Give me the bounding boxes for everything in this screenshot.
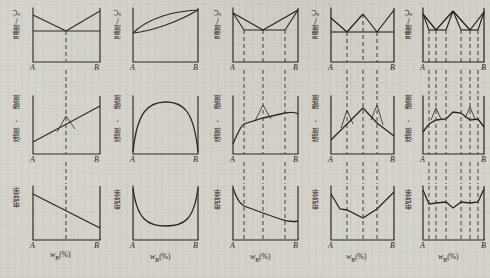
liquidus-3 bbox=[363, 14, 377, 32]
y-axis-label-temperature: 温度/℃ bbox=[114, 8, 122, 40]
axis-endpoint-A-bot: A bbox=[420, 241, 425, 250]
svg-col5-top bbox=[420, 6, 488, 70]
bridge-dashlines bbox=[429, 70, 478, 94]
axis-endpoint-B-mid: B bbox=[193, 155, 198, 164]
figure-page: 温度/℃ A B 强度, 硬度 bbox=[0, 0, 490, 278]
dash-bridge-col5-2 bbox=[420, 162, 488, 184]
axis-endpoint-B-bot: B bbox=[390, 241, 395, 250]
y-axis-label-strength-hardness: 强度, 硬度 bbox=[312, 96, 320, 143]
bridge-dashlines bbox=[429, 162, 478, 184]
conductivity-polyline bbox=[331, 192, 394, 218]
axes-frame bbox=[423, 96, 484, 154]
svg-col3-middle bbox=[230, 94, 302, 162]
panel-col3-phase-diagram bbox=[230, 6, 302, 70]
svg-col4-top bbox=[328, 6, 398, 70]
property-polyline bbox=[331, 108, 394, 140]
x-axis-label-3: wB(%) bbox=[250, 252, 271, 263]
x-axis-unit: (%) bbox=[355, 252, 366, 261]
y-axis-label-strength-hardness: 强度, 硬度 bbox=[214, 96, 222, 143]
diagram-column-5: 温度/℃ A B 强度, bbox=[400, 0, 490, 278]
x-axis-unit: (%) bbox=[159, 252, 170, 261]
x-axis-label-2: wB(%) bbox=[150, 252, 171, 263]
panel-col2-conductivity bbox=[130, 184, 202, 246]
panel-col1-strength bbox=[30, 94, 104, 162]
svg-col3-top bbox=[230, 6, 302, 70]
liquidus-right bbox=[263, 10, 298, 30]
y-axis-label-temperature: 温度/℃ bbox=[312, 8, 320, 40]
panel-col3-conductivity bbox=[230, 184, 302, 246]
y-axis-label-strength-hardness: 强度, 硬度 bbox=[13, 96, 21, 143]
dash-bridge-col3-1 bbox=[230, 70, 302, 94]
dash-bridge-col5-1 bbox=[420, 70, 488, 94]
panel-col5-strength bbox=[420, 94, 488, 162]
dash-bridge-col1-2 bbox=[30, 162, 104, 184]
dash-bridge-col3-2 bbox=[230, 162, 302, 184]
axes-frame bbox=[133, 186, 198, 240]
liquidus-curve bbox=[133, 10, 198, 33]
y-axis-label-strength-hardness: 强度, 硬度 bbox=[114, 96, 122, 143]
y-axis-label-temperature: 温度/℃ bbox=[13, 8, 21, 40]
axis-endpoint-A-bot: A bbox=[30, 241, 35, 250]
axes-frame bbox=[423, 8, 484, 62]
panel-col1-phase-diagram bbox=[30, 6, 104, 70]
x-axis-label-4: wB(%) bbox=[346, 252, 367, 263]
axis-endpoint-B-top: B bbox=[193, 63, 198, 72]
property-polyline bbox=[423, 112, 484, 132]
panel-col4-phase-diagram bbox=[328, 6, 398, 70]
y-axis-label-conductivity: 电导率 bbox=[214, 190, 222, 211]
x-axis-unit: (%) bbox=[447, 252, 458, 261]
solvus-mid-right bbox=[453, 11, 461, 30]
conductivity-curve bbox=[233, 188, 298, 222]
svg-bridge-col3-1 bbox=[230, 70, 302, 94]
svg-col2-top bbox=[130, 6, 202, 70]
axis-endpoint-B-bot: B bbox=[293, 241, 298, 250]
diagram-column-4: 温度/℃ A B 强度, 硬度 bbox=[304, 0, 400, 278]
svg-col3-bottom bbox=[230, 184, 302, 246]
y-axis-label-conductivity: 电导率 bbox=[114, 190, 122, 211]
panel-col2-strength bbox=[130, 94, 202, 162]
x-axis-unit: (%) bbox=[59, 250, 70, 259]
solvus-beta bbox=[478, 12, 484, 30]
axes-frame bbox=[331, 186, 394, 240]
diagram-column-1: 温度/℃ A B 强度, 硬度 bbox=[0, 0, 104, 278]
conductivity-polyline bbox=[423, 189, 484, 208]
composition-dashlines bbox=[347, 96, 377, 154]
svg-bridge-col3-2 bbox=[230, 162, 302, 184]
axes-frame bbox=[133, 8, 198, 62]
y-axis-label-temperature: 温度/℃ bbox=[214, 8, 222, 40]
y-axis-label-temperature: 温度/℃ bbox=[405, 8, 413, 40]
composition-dashlines bbox=[347, 186, 377, 240]
axis-endpoint-B-bot: B bbox=[193, 241, 198, 250]
svg-col2-middle bbox=[130, 94, 202, 162]
composition-dashlines bbox=[429, 30, 478, 62]
bridge-dashlines bbox=[347, 70, 377, 94]
liquidus-4 bbox=[470, 12, 484, 30]
svg-bridge-col1-2 bbox=[30, 162, 104, 184]
axes-frame bbox=[331, 96, 394, 154]
panel-col4-strength bbox=[328, 94, 398, 162]
svg-bridge-col4-1 bbox=[328, 70, 398, 94]
dash-bridge-col4-1 bbox=[328, 70, 398, 94]
svg-col5-middle bbox=[420, 94, 488, 162]
liquidus-1 bbox=[423, 14, 436, 30]
axes-frame bbox=[331, 8, 394, 62]
svg-col1-top bbox=[30, 6, 104, 70]
svg-bridge-col5-1 bbox=[420, 70, 488, 94]
solvus-mid-left bbox=[446, 11, 453, 30]
composition-dashlines bbox=[347, 14, 377, 62]
bridge-dashlines bbox=[347, 162, 377, 184]
liquidus-1 bbox=[331, 18, 347, 32]
solidus-curve bbox=[133, 10, 198, 33]
liquidus-2 bbox=[347, 14, 363, 32]
diagram-column-2: 温度/℃ A B 强度, 硬度 A B 电导率 bbox=[104, 0, 204, 278]
conductivity-concave-curve bbox=[133, 188, 198, 226]
panel-col4-conductivity bbox=[328, 184, 398, 246]
svg-bridge-col1-1 bbox=[30, 70, 104, 94]
panel-col5-phase-diagram bbox=[420, 6, 488, 70]
axes-frame bbox=[233, 186, 298, 240]
liquidus-2 bbox=[436, 11, 453, 30]
axes-frame bbox=[423, 186, 484, 240]
panel-col5-conductivity bbox=[420, 184, 488, 246]
y-axis-label-conductivity: 电导率 bbox=[312, 190, 320, 211]
svg-bridge-col4-2 bbox=[328, 162, 398, 184]
